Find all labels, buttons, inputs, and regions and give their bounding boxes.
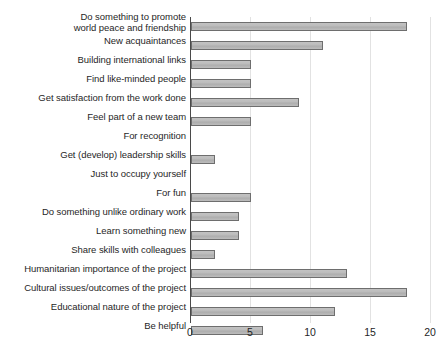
bar-row: Building international links	[0, 55, 448, 74]
plot-area: Do something to promote world peace and …	[0, 0, 448, 357]
bar	[191, 60, 251, 69]
bar-row: Share skills with colleagues	[0, 245, 448, 264]
bar	[191, 22, 407, 31]
bar-category-label: Humanitarian importance of the project	[4, 264, 186, 275]
bar-category-label: Learn something new	[4, 226, 186, 237]
bar-row: Learn something new	[0, 226, 448, 245]
bar-row: For fun	[0, 188, 448, 207]
bar-row: Feel part of a new team	[0, 112, 448, 131]
bar	[191, 212, 239, 221]
bar-category-label: Find like-minded people	[4, 74, 186, 85]
bar	[191, 117, 251, 126]
bar-category-label: Get (develop) leadership skills	[4, 150, 186, 161]
horizontal-bar-chart: Do something to promote world peace and …	[0, 0, 448, 357]
bar-row: Be helpful	[0, 321, 448, 340]
bar-category-label: For recognition	[4, 131, 186, 142]
bar-category-label: Just to occupy yourself	[4, 169, 186, 180]
bar	[191, 79, 251, 88]
bar	[191, 307, 335, 316]
bar-category-label: Do something unlike ordinary work	[4, 207, 186, 218]
bar-row: Do something unlike ordinary work	[0, 207, 448, 226]
x-tick-label: 20	[424, 326, 436, 338]
bar-row: Do something to promote world peace and …	[0, 17, 448, 36]
x-tick-label: 0	[187, 326, 193, 338]
bar-category-label: New acquaintances	[4, 36, 186, 47]
bar	[191, 193, 251, 202]
bar-category-label: Be helpful	[4, 321, 186, 332]
bar	[191, 250, 215, 259]
bar	[191, 231, 239, 240]
bar-row: Humanitarian importance of the project	[0, 264, 448, 283]
bar	[191, 288, 407, 297]
bar-category-label: Building international links	[4, 55, 186, 66]
x-tick-label: 10	[304, 326, 316, 338]
bar-row: Find like-minded people	[0, 74, 448, 93]
bar-category-label: Educational nature of the project	[4, 302, 186, 313]
bar	[191, 98, 299, 107]
bar-category-label: Share skills with colleagues	[4, 245, 186, 256]
bar-row: Get (develop) leadership skills	[0, 150, 448, 169]
bar-row: For recognition	[0, 131, 448, 150]
bar-row: Educational nature of the project	[0, 302, 448, 321]
bar-row: New acquaintances	[0, 36, 448, 55]
bar-category-label: Do something to promote world peace and …	[4, 12, 186, 33]
x-tick-label: 5	[247, 326, 253, 338]
bar-row: Cultural issues/outcomes of the project	[0, 283, 448, 302]
bar-category-label: Feel part of a new team	[4, 112, 186, 123]
bar	[191, 41, 323, 50]
bar-row: Get satisfaction from the work done	[0, 93, 448, 112]
x-tick-label: 15	[364, 326, 376, 338]
bar	[191, 269, 347, 278]
bar-row: Just to occupy yourself	[0, 169, 448, 188]
bar-category-label: Get satisfaction from the work done	[4, 93, 186, 104]
bar-category-label: For fun	[4, 188, 186, 199]
bar-category-label: Cultural issues/outcomes of the project	[4, 283, 186, 294]
bar	[191, 155, 215, 164]
